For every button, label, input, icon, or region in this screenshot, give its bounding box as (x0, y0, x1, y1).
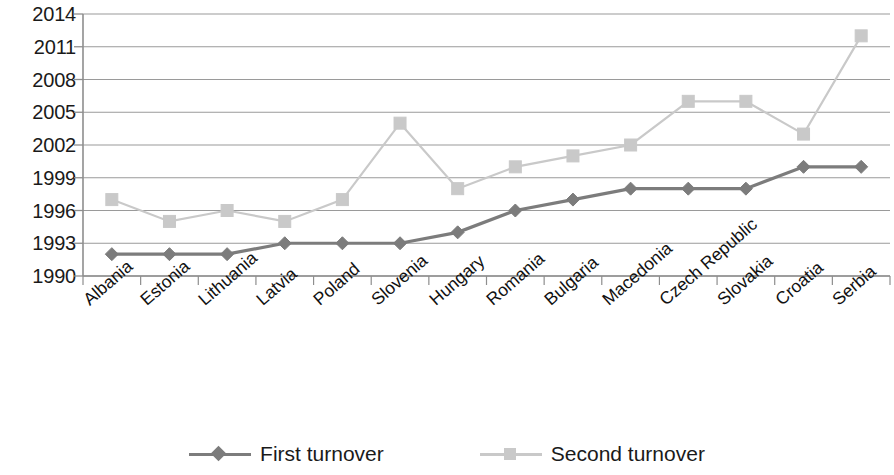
data-point-diamond (451, 226, 464, 239)
data-point-diamond (682, 182, 695, 195)
data-point-square (509, 161, 521, 173)
data-point-diamond (797, 160, 810, 173)
data-point-diamond (739, 182, 752, 195)
data-point-square (567, 150, 579, 162)
legend-item-first-turnover: First turnover (189, 443, 384, 465)
data-point-diamond (509, 204, 522, 217)
data-point-square (163, 215, 175, 227)
legend-item-second-turnover: Second turnover (480, 443, 705, 465)
data-point-diamond (336, 237, 349, 250)
legend-swatch-first-turnover (189, 445, 251, 463)
data-point-diamond (394, 237, 407, 250)
data-point-square (106, 194, 118, 206)
data-point-diamond (105, 248, 118, 261)
data-point-square (336, 194, 348, 206)
data-point-diamond (278, 237, 291, 250)
data-point-square (394, 117, 406, 129)
data-point-square (279, 215, 291, 227)
data-point-square (740, 95, 752, 107)
data-point-diamond (624, 182, 637, 195)
plot-area (0, 0, 894, 295)
diamond-marker-icon (211, 446, 227, 462)
data-point-diamond (566, 193, 579, 206)
data-point-square (625, 139, 637, 151)
data-point-square (221, 205, 233, 217)
x-axis: AlbaniaEstoniaLithuaniaLatviaPolandSlove… (0, 285, 894, 405)
data-point-diamond (163, 248, 176, 261)
series-second-turnover (106, 30, 867, 228)
data-point-square (682, 95, 694, 107)
legend-label-second-turnover: Second turnover (542, 443, 705, 465)
data-point-diamond (855, 160, 868, 173)
data-point-diamond (221, 248, 234, 261)
data-point-square (452, 183, 464, 195)
square-marker-icon (504, 448, 516, 460)
data-point-square (855, 30, 867, 42)
line-chart: 201420112008200520021999199619931990 Alb… (0, 0, 894, 475)
series-line (112, 36, 861, 222)
legend-swatch-second-turnover (480, 445, 542, 463)
data-point-square (798, 128, 810, 140)
chart-legend: First turnover Second turnover (0, 434, 894, 474)
legend-label-first-turnover: First turnover (251, 443, 384, 465)
